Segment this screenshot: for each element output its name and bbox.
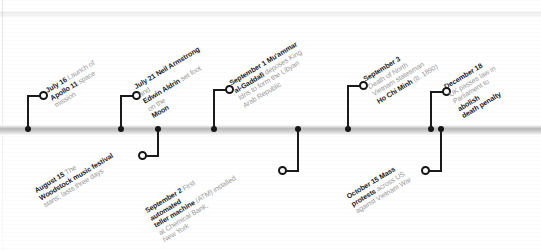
connector-elbow [285,170,299,172]
marker-ring-woodstock-festival [138,151,147,160]
marker-ring-vietnam-war-protests [421,166,430,175]
event-label-woodstock-festival: August 15 TheWoodstock music festivalsta… [33,144,119,210]
connector-stem [27,96,29,129]
connector-stem [440,131,442,171]
timeline-axis-bar [0,125,541,135]
connector-stem [120,96,122,129]
event-label-ho-chi-minh-death: September 3Death of NorthVietnam statesm… [362,41,439,106]
connector-stem [157,131,159,156]
event-label-uk-death-penalty-abolished: December 18UK passes law inParliament to… [443,57,510,121]
marker-ring-first-atm [278,166,287,175]
connector-stem [297,131,299,171]
timeline-figure: July 16 Launch ofApollo 11 spacemission … [0,0,541,251]
event-label-vietnam-war-protests: October 15 Massprotests across USagainst… [345,161,413,216]
connector-stem [347,86,349,129]
event-label-first-atm: September 2 First automatedteller machin… [144,160,247,245]
connector-stem [213,90,215,129]
connector-elbow [145,155,159,157]
event-label-moon-landing: July 21 Neil Armstrongand Edwin Aldrin s… [133,46,219,121]
connector-stem [430,92,432,129]
event-label-gaddafi-libya: September 1 Mu'ammaral-Gaddafi deposes K… [228,40,312,110]
event-label-apollo-11-launch: July 16 Launch ofApollo 11 spacemission [44,59,105,110]
connector-elbow [428,170,442,172]
